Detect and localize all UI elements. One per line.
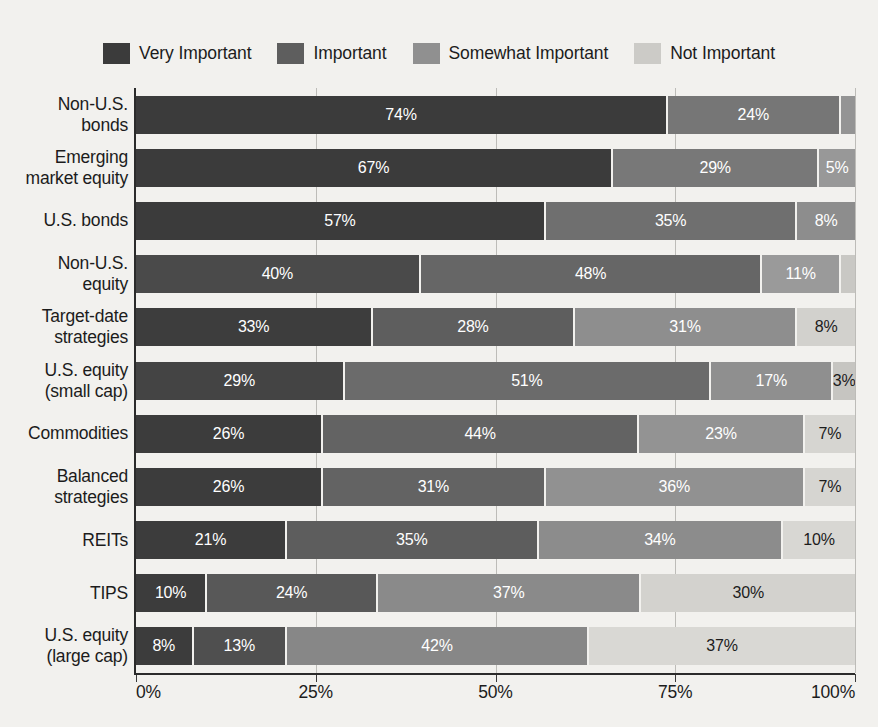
category-label-line: market equity [0,168,128,189]
bar-segment: 23% [639,415,804,453]
category-label: U.S. equity(small cap) [0,360,128,402]
bar-segment-value: 36% [659,479,690,495]
bar-segment: 67% [136,149,613,187]
bar-segment: 7% [805,415,855,453]
bar-segment-value: 8% [815,319,838,335]
category-label-line: Balanced [0,466,128,487]
bar-segment-value: 42% [421,638,452,654]
bar-segment: 34% [539,521,783,559]
bar-segment: 8% [797,202,855,240]
bar-segment-value: 57% [324,213,355,229]
category-label-line: equity [0,274,128,295]
bar-segment: 26% [136,415,323,453]
bar-segment: 36% [546,468,805,506]
bar-segment: 35% [287,521,539,559]
bar-segment-value: 28% [457,319,488,335]
bar-row: 21%35%34%10% [136,521,855,559]
x-axis-tick-label: 0% [136,682,161,703]
bar-segment-value: 5% [826,160,849,176]
bar-segment: 31% [323,468,546,506]
bar-segment-value: 37% [706,638,737,654]
bar-segment-value: 24% [738,107,769,123]
category-axis-labels: Non-U.S.bondsEmergingmarket equityU.S. b… [0,88,128,673]
bar-segment-value: 26% [213,479,244,495]
category-label-line: strategies [0,327,128,348]
category-label-line: (large cap) [0,646,128,667]
bar-segment-value: 7% [818,479,841,495]
bar-segment-value: 8% [152,638,175,654]
bar-row: 26%31%36%7% [136,468,855,506]
category-label-line: Non-U.S. [0,94,128,115]
bar-segment-value: 29% [699,160,730,176]
legend-label: Somewhat Important [449,43,609,64]
bar-segment: 11% [762,255,840,293]
bar-segment-value: 31% [418,479,449,495]
bar-segment-value: 35% [396,532,427,548]
legend-swatch-icon [413,43,440,64]
category-label: U.S. bonds [0,210,128,231]
bar-segment-value: 51% [511,373,542,389]
bar-segment: 74% [136,96,668,134]
category-label: TIPS [0,583,128,604]
bar-segment: 51% [345,362,712,400]
bar-segment-value: 23% [705,426,736,442]
legend-item: Important [277,43,386,64]
bar-segment: 10% [783,521,855,559]
bar-segment-value: 33% [238,319,269,335]
category-label: U.S. equity(large cap) [0,625,128,667]
category-label: Non-U.S.bonds [0,94,128,136]
x-axis-tick-label: 75% [658,682,692,703]
bar-segment: 5% [819,149,855,187]
bar-segment-value: 67% [358,160,389,176]
category-label-line: Emerging [0,147,128,168]
x-axis-tick [136,674,137,682]
bar-segment: 2% [841,255,855,293]
category-label: Balancedstrategies [0,466,128,508]
bar-segment: 7% [805,468,855,506]
bar-segment: 35% [546,202,798,240]
bar-segment: 13% [194,627,287,665]
plot-area: 74%24%2%67%29%5%57%35%8%40%48%11%2%33%28… [136,88,855,673]
legend-swatch-icon [634,43,661,64]
x-axis-tick [496,674,497,682]
category-label: REITs [0,530,128,551]
legend-item: Not Important [634,43,775,64]
bar-rows: 74%24%2%67%29%5%57%35%8%40%48%11%2%33%28… [136,88,855,673]
bar-segment: 37% [589,627,855,665]
bar-segment: 48% [421,255,763,293]
bar-segment-value: 24% [276,585,307,601]
category-label-line: Non-U.S. [0,253,128,274]
bar-segment: 17% [711,362,833,400]
x-axis-tick [316,674,317,682]
bar-segment-value: 30% [733,585,764,601]
bar-segment: 57% [136,202,546,240]
bar-segment-value: 35% [655,213,686,229]
stacked-bar-chart: Very ImportantImportantSomewhat Importan… [0,0,878,727]
bar-segment: 26% [136,468,323,506]
category-label-line: TIPS [0,583,128,604]
category-label-line: U.S. bonds [0,210,128,231]
bar-row: 67%29%5% [136,149,855,187]
bar-segment: 29% [613,149,819,187]
x-axis-tick [855,674,856,682]
legend-swatch-icon [277,43,304,64]
legend-item: Very Important [103,43,251,64]
bar-segment-value: 3% [833,373,855,389]
x-axis-line [134,673,855,675]
bar-segment-value: 44% [464,426,495,442]
bar-segment: 37% [378,574,641,612]
bar-row: 29%51%17%3% [136,362,855,400]
bar-segment: 10% [136,574,207,612]
bar-segment: 8% [136,627,194,665]
bar-segment: 2% [841,96,855,134]
category-label-line: U.S. equity [0,360,128,381]
bar-segment: 44% [323,415,639,453]
bar-segment-value: 7% [818,426,841,442]
bar-segment: 42% [287,627,589,665]
category-label-line: U.S. equity [0,625,128,646]
x-axis-tick [675,674,676,682]
category-label-line: strategies [0,487,128,508]
bar-segment-value: 21% [195,532,226,548]
category-label: Emergingmarket equity [0,147,128,189]
bar-segment: 31% [575,308,798,346]
